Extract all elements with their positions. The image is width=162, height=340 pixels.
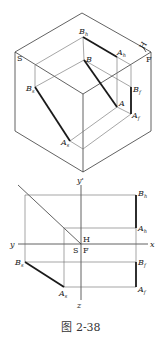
label-h: H	[83, 235, 90, 244]
line-bs-as	[35, 87, 70, 141]
label-b: B	[85, 55, 92, 64]
proj-b-bs	[35, 60, 84, 87]
label-h-plane: H	[138, 40, 149, 51]
label-bf: Bf	[137, 258, 147, 269]
line-bh-ah	[83, 37, 117, 57]
label-bh: Bh	[78, 27, 88, 37]
proj-bh-left	[35, 37, 83, 65]
label-f: F	[83, 246, 89, 255]
label-f-plane: F	[146, 55, 152, 64]
figure-caption: 图 2-38	[0, 318, 162, 334]
label-a: A	[118, 99, 125, 108]
label-y-prime: y'	[76, 176, 84, 185]
diagonal-45	[18, 185, 81, 244]
label-y: y	[9, 240, 15, 249]
label-x: x	[150, 240, 155, 249]
proj-bh-b	[83, 37, 84, 60]
label-ah: Ah	[137, 224, 147, 234]
label-bh: Bh	[137, 189, 147, 199]
proj-af-edge	[83, 114, 131, 149]
proj-a-as	[70, 107, 117, 141]
proj-ah-right	[117, 57, 131, 65]
isometric-cube: S F H Bh Ah B A Bf Af Bs As	[15, 13, 152, 172]
proj-b-bf	[84, 60, 131, 87]
orthographic-projection: y' y x z H S F Bh Ah Bf Af Bs As	[9, 176, 155, 310]
label-ah: Ah	[116, 48, 126, 58]
label-bs: Bs	[14, 258, 24, 268]
line-b-a	[84, 60, 117, 107]
label-z: z	[76, 301, 82, 310]
label-s-plane: S	[17, 54, 22, 63]
label-as: As	[58, 289, 68, 299]
label-bf: Bf	[132, 85, 142, 96]
label-af: Af	[131, 111, 141, 122]
line-bs-as	[25, 262, 64, 287]
proj-as-edge	[70, 141, 83, 149]
proj-a-af	[117, 107, 131, 114]
label-af: Af	[137, 285, 147, 296]
label-s: S	[73, 246, 78, 255]
projection-diagram: S F H Bh Ah B A Bf Af Bs As y' y x	[0, 0, 162, 340]
label-bs: Bs	[25, 84, 35, 94]
